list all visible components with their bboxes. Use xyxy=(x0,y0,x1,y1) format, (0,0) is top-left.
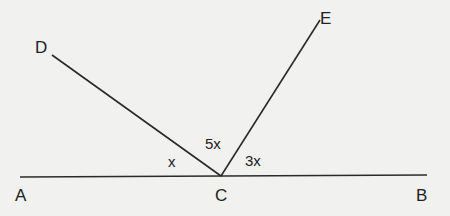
point-label-a: A xyxy=(15,186,27,205)
angle-label-dce: 5x xyxy=(205,135,221,152)
point-label-d: D xyxy=(35,38,47,57)
point-label-e: E xyxy=(320,9,331,28)
angle-label-ecb: 3x xyxy=(245,152,261,169)
angle-label-acd: x xyxy=(168,153,176,170)
diagram-canvas: D E A C B x 5x 3x xyxy=(0,0,450,216)
ray-cd xyxy=(52,55,221,176)
ray-ce xyxy=(221,20,320,176)
point-label-b: B xyxy=(416,186,427,205)
point-label-c: C xyxy=(215,186,227,205)
line-ab xyxy=(20,175,427,177)
angle-diagram: D E A C B x 5x 3x xyxy=(0,0,450,216)
